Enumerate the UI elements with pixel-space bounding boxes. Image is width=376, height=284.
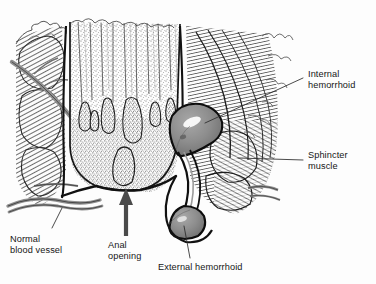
label-anal-opening: Anal opening — [108, 240, 141, 261]
rectal-mucosa — [66, 18, 184, 198]
label-external-hemorrhoid: External hemorrhoid — [158, 262, 242, 273]
label-internal-hemorrhoid: Internal hemorrhoid — [308, 69, 355, 90]
label-normal-blood-vessel: Normal blood vessel — [10, 234, 62, 255]
label-sphincter-muscle: Sphincter muscle — [308, 150, 348, 171]
